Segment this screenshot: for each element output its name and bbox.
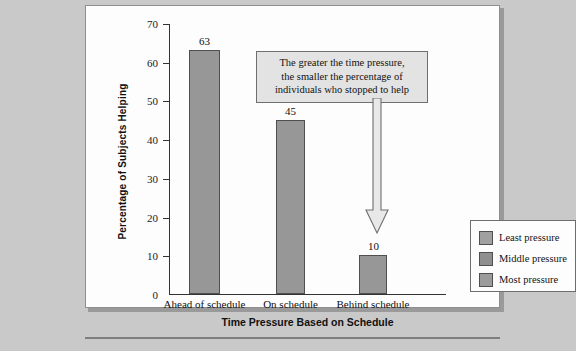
y-tick-label: 0 — [136, 289, 158, 301]
y-tick-label: 40 — [136, 134, 158, 146]
legend-item-middle-pressure[interactable]: Middle pressure — [479, 248, 575, 269]
bar-value-label: 45 — [270, 105, 311, 117]
x-axis-title: Time Pressure Based on Schedule — [169, 316, 446, 328]
x-tick-label-on-schedule: On schedule — [252, 298, 329, 310]
legend-label: Least pressure — [499, 232, 559, 243]
x-axis-line — [169, 294, 446, 295]
y-tick-label: 60 — [136, 57, 158, 69]
y-tick-label: 70 — [136, 18, 158, 30]
legend-item-most-pressure[interactable]: Most pressure — [479, 269, 575, 290]
y-tick-label: 30 — [136, 173, 158, 185]
y-tick-label: 50 — [136, 95, 158, 107]
legend-label: Middle pressure — [499, 253, 567, 264]
chart-legend: Least pressure Middle pressure Most pres… — [470, 220, 576, 292]
bar-value-label: 63 — [184, 35, 225, 47]
callout-line-3: individuals who stopped to help — [262, 83, 422, 97]
legend-swatch-icon — [479, 273, 493, 287]
figure-frame: 70 60 50 40 30 20 10 0 Percentage of Sub… — [85, 5, 500, 308]
y-tick-mark — [163, 63, 169, 64]
y-tick-mark — [163, 179, 169, 180]
y-tick-mark — [163, 101, 169, 102]
annotation-callout: The greater the time pressure, the small… — [256, 51, 428, 103]
x-tick-label-ahead-of-schedule: Ahead of schedule — [159, 298, 250, 310]
legend-item-least-pressure[interactable]: Least pressure — [479, 227, 575, 248]
legend-label: Most pressure — [499, 274, 558, 285]
legend-swatch-icon — [479, 231, 493, 245]
y-tick-label: 20 — [136, 212, 158, 224]
legend-swatch-icon — [479, 252, 493, 266]
y-axis-title: Percentage of Subjects Helping — [117, 62, 128, 262]
callout-line-1: The greater the time pressure, — [262, 56, 422, 70]
y-axis-line — [169, 24, 170, 295]
bar-behind-schedule[interactable] — [359, 255, 387, 294]
y-tick-mark — [163, 140, 169, 141]
bar-ahead-of-schedule[interactable] — [189, 50, 220, 294]
page-bottom-rule — [85, 337, 500, 339]
y-tick-mark — [163, 256, 169, 257]
y-tick-mark — [163, 24, 169, 25]
callout-line-2: the smaller the percentage of — [262, 70, 422, 84]
callout-down-arrow-icon — [364, 98, 390, 238]
y-tick-mark — [163, 218, 169, 219]
x-tick-label-behind-schedule: Behind schedule — [328, 298, 418, 310]
bar-on-schedule[interactable] — [276, 120, 305, 294]
bar-value-label: 10 — [353, 240, 394, 252]
y-tick-label: 10 — [136, 250, 158, 262]
